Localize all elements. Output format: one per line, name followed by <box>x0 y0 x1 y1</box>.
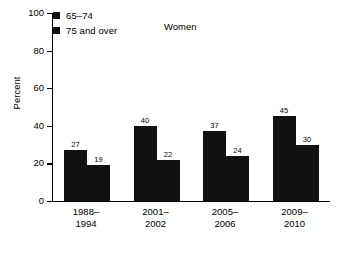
x-axis-labels: 1988–19942001–20022005–20062009–2010 <box>52 206 330 246</box>
bar: 40 <box>134 126 157 201</box>
bar-group: 3724 <box>203 13 249 201</box>
bar: 30 <box>296 145 319 201</box>
y-axis-tick-label: 0 <box>39 195 44 206</box>
y-axis-tick: 40 <box>47 126 52 127</box>
x-axis-label: 2005–2006 <box>185 206 265 230</box>
bars-layer: 2719402237244530 <box>53 13 330 201</box>
x-axis-label: 1988–1994 <box>46 206 126 230</box>
x-axis-label-line: 1988– <box>46 206 126 218</box>
x-axis-label-line: 2002 <box>116 218 196 230</box>
y-axis-tick-label: 80 <box>33 45 44 56</box>
y-axis-tick: 80 <box>47 51 52 52</box>
bar: 27 <box>64 150 87 201</box>
y-axis-tick: 100 <box>47 13 52 14</box>
x-axis-label: 2009–2010 <box>255 206 335 230</box>
y-axis-tick-label: 100 <box>28 7 44 18</box>
y-axis-title: Percent <box>12 63 22 123</box>
bar-value-label: 30 <box>303 135 311 144</box>
x-axis-label-line: 2001– <box>116 206 196 218</box>
bar-group: 2719 <box>64 13 110 201</box>
x-axis-label: 2001–2002 <box>116 206 196 230</box>
bar: 24 <box>226 156 249 201</box>
y-axis-tick-label: 60 <box>33 82 44 93</box>
bar-value-label: 27 <box>71 140 79 149</box>
bar-value-label: 19 <box>94 155 102 164</box>
bar-value-label: 24 <box>233 146 241 155</box>
bar-group: 4022 <box>134 13 180 201</box>
y-axis-tick: 0 <box>47 201 52 202</box>
bar: 45 <box>273 116 296 201</box>
y-axis-tick-label: 20 <box>33 157 44 168</box>
y-axis-tick-label: 40 <box>33 120 44 131</box>
bar-value-label: 37 <box>210 121 218 130</box>
x-axis-label-line: 2005– <box>185 206 265 218</box>
bar: 19 <box>87 165 110 201</box>
plot-area: 100806040200 2719402237244530 <box>52 13 330 201</box>
x-axis-label-line: 2010 <box>255 218 335 230</box>
bar-chart: 65–74 75 and over Women Percent 10080604… <box>0 0 337 253</box>
bar-group: 4530 <box>273 13 319 201</box>
x-axis-label-line: 2006 <box>185 218 265 230</box>
bar-value-label: 45 <box>280 106 288 115</box>
bar: 22 <box>157 160 180 201</box>
bar-value-label: 40 <box>141 116 149 125</box>
bar-value-label: 22 <box>164 150 172 159</box>
x-axis-label-line: 1994 <box>46 218 126 230</box>
y-axis-tick: 20 <box>47 163 52 164</box>
bar: 37 <box>203 131 226 201</box>
x-axis-label-line: 2009– <box>255 206 335 218</box>
y-axis-tick: 60 <box>47 88 52 89</box>
